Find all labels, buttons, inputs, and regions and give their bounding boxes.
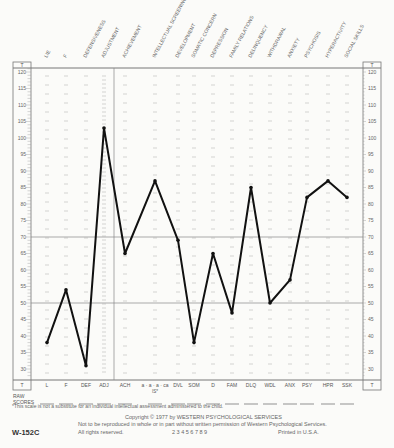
y-tick-label: 120 — [368, 69, 377, 75]
scale-abbr-l: L — [46, 382, 49, 388]
scale-name-dlq: DELINQUENCY — [247, 23, 270, 58]
y-tick-label: 75 — [20, 217, 26, 223]
y-tick-label: 70 — [20, 234, 26, 240]
y-tick-label: 50 — [20, 300, 26, 306]
scale-abbr-fam: FAM — [227, 382, 237, 388]
y-tick-label: 40 — [20, 333, 26, 339]
y-tick-label: 55 — [368, 283, 374, 289]
scale-name-adj: ADJUSTMENT — [100, 26, 121, 59]
scale-abbr-ssk: SSK — [342, 382, 353, 388]
data-point-dlq — [249, 186, 253, 190]
y-tick-label: 80 — [368, 201, 374, 207]
svg-text:T: T — [370, 62, 373, 68]
y-tick-label: 45 — [368, 316, 374, 322]
left-t-axis — [13, 62, 31, 390]
y-tick-label: 115 — [368, 85, 376, 91]
y-tick-label: 65 — [20, 250, 26, 256]
y-tick-label: 70 — [368, 234, 374, 240]
svg-text:T: T — [20, 382, 23, 388]
y-tick-label: 90 — [368, 168, 374, 174]
y-tick-label: 100 — [18, 135, 27, 141]
y-tick-label: 30 — [20, 366, 26, 372]
y-tick-label: 110 — [18, 102, 26, 108]
y-tick-label: 115 — [18, 85, 26, 91]
svg-text:T: T — [20, 62, 23, 68]
scale-name-psy: PSYCHOSIS — [303, 29, 322, 58]
y-tick-label: 60 — [20, 267, 26, 273]
profile-chart: TTTT303035354040454550505555606065657070… — [0, 0, 394, 420]
y-tick-label: 50 — [368, 300, 374, 306]
scale-abbr-hpr: HPR — [323, 382, 334, 388]
data-point-anx — [288, 278, 292, 282]
data-point-def — [84, 364, 88, 368]
y-tick-label: 95 — [368, 151, 374, 157]
scale-name-d: DEPRESSION — [209, 26, 230, 58]
data-point-dvl — [176, 239, 180, 243]
rights-reserved: All rights reserved. — [78, 429, 124, 435]
form-id: W-152C — [12, 428, 39, 437]
data-point-som — [192, 341, 196, 345]
y-tick-label: 95 — [20, 151, 26, 157]
y-tick-label: 85 — [368, 184, 374, 190]
data-point-psy — [305, 196, 309, 200]
data-point-d — [211, 252, 215, 256]
y-tick-label: 90 — [20, 168, 26, 174]
y-tick-label: 100 — [368, 135, 377, 141]
data-point-adj — [102, 126, 106, 130]
scale-abbr-dlq: DLQ — [246, 382, 256, 388]
scale-name-f: F — [62, 53, 69, 59]
y-tick-label: 55 — [20, 283, 26, 289]
scale-abbr-f: F — [64, 382, 67, 388]
scale-abbr-is: a · a · a · ca — [142, 382, 169, 388]
y-tick-label: 110 — [368, 102, 376, 108]
reproduction-notice: Not to be reproduced in whole or in part… — [78, 421, 327, 427]
y-tick-label: 40 — [368, 333, 374, 339]
y-tick-label: 85 — [20, 184, 26, 190]
data-point-fam — [230, 311, 234, 315]
y-tick-label: 45 — [20, 316, 26, 322]
printed-in: Printed in U.S.A. — [278, 429, 319, 435]
scale-abbr-dvl: DVL — [173, 382, 183, 388]
scale-abbr-ach: ACH — [120, 382, 131, 388]
scale-name-ssk: SOCIAL SKILLS — [343, 23, 366, 59]
scale-name-anx: ANXIETY — [286, 36, 302, 58]
scale-abbr-def: DEF — [81, 382, 91, 388]
y-tick-label: 105 — [368, 118, 377, 124]
profile-line — [47, 128, 347, 366]
data-point-f — [64, 288, 68, 292]
right-t-axis — [363, 62, 381, 390]
data-point-hpr — [326, 179, 330, 183]
scale-abbr-anx: ANX — [285, 382, 296, 388]
scale-abbr-adj: ADJ — [99, 382, 109, 388]
svg-text:IS*: IS* — [152, 389, 158, 394]
footnote: *This scale is not a substitute for an i… — [12, 403, 223, 409]
scale-name-wdl: WITHDRAWAL — [266, 26, 287, 59]
y-tick-label: 105 — [18, 118, 27, 124]
y-tick-label: 65 — [368, 250, 374, 256]
y-tick-label: 35 — [20, 349, 26, 355]
printing-numbers: 2 3 4 5 6 7 8 9 — [172, 429, 207, 435]
scale-name-l: LIE — [43, 48, 52, 58]
y-tick-label: 80 — [20, 201, 26, 207]
scale-abbr-psy: PSY — [302, 382, 313, 388]
copyright: Copyright © 1977 by WESTERN PSYCHOLOGICA… — [125, 414, 282, 420]
y-tick-label: 75 — [368, 217, 374, 223]
data-point-l — [45, 341, 49, 345]
y-tick-label: 30 — [368, 366, 374, 372]
data-point-ach — [123, 252, 127, 256]
scale-name-ach: ACHIEVEMENT — [121, 24, 143, 59]
svg-text:T: T — [370, 382, 373, 388]
y-tick-label: 35 — [368, 349, 374, 355]
y-tick-label: 120 — [18, 69, 27, 75]
data-point-wdl — [268, 301, 272, 305]
data-point-is — [153, 179, 157, 183]
scale-abbr-wdl: WDL — [264, 382, 275, 388]
scale-abbr-som: SOM — [188, 382, 199, 388]
data-point-ssk — [345, 196, 349, 200]
y-tick-label: 60 — [368, 267, 374, 273]
scale-abbr-d: D — [211, 382, 215, 388]
